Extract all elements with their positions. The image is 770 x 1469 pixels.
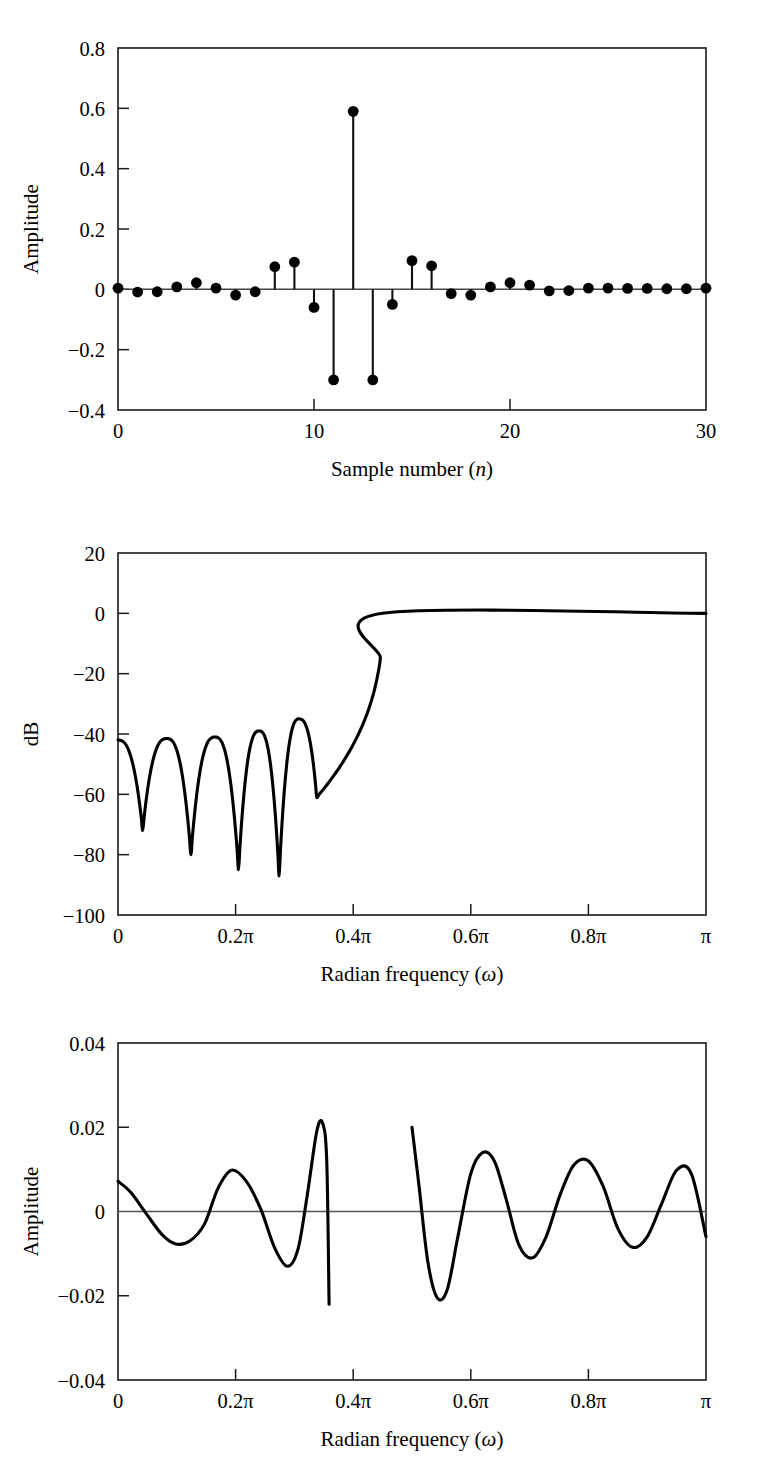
stem-marker — [113, 283, 124, 294]
magnitude-curve — [118, 610, 706, 876]
y-tick-label: 0.8 — [79, 38, 105, 60]
y-axis-title: dB — [19, 722, 43, 747]
stem-marker — [230, 290, 241, 301]
x-tick-label: 0.2π — [218, 1390, 255, 1412]
x-tick-label: 0 — [113, 925, 123, 947]
stem-marker — [211, 283, 222, 294]
stem-marker — [132, 287, 143, 298]
x-tick-label: 0.6π — [453, 1390, 490, 1412]
x-axis-title: Radian frequency (ω) — [321, 962, 504, 986]
stem-marker — [446, 288, 457, 299]
x-axis-title: Sample number (n) — [331, 457, 493, 481]
y-axis-title: Amplitude — [19, 184, 43, 274]
y-tick-label: −0.04 — [58, 1370, 105, 1392]
stem-marker — [289, 257, 300, 268]
y-tick-label: 0 — [95, 603, 105, 625]
plot-frame — [118, 48, 706, 410]
y-tick-label: −0.4 — [68, 400, 105, 422]
x-tick-label: 0.4π — [335, 925, 372, 947]
stem-marker — [583, 283, 594, 294]
figure-page: −0.4−0.200.20.40.60.80102030AmplitudeSam… — [0, 0, 770, 1469]
stem-marker — [269, 261, 280, 272]
panel-b: −100−80−60−40−2002000.2π0.4π0.6π0.8ππdBR… — [0, 500, 770, 1005]
y-tick-label: 0 — [95, 1201, 105, 1223]
stem-marker — [426, 260, 437, 271]
x-tick-label: 0.6π — [453, 925, 490, 947]
stem-marker — [387, 299, 398, 310]
y-axis-title: Amplitude — [19, 1167, 43, 1257]
stem-marker — [603, 283, 614, 294]
error-plot-c: −0.04−0.0200.020.0400.2π0.4π0.6π0.8ππAmp… — [0, 1005, 770, 1469]
y-tick-label: −40 — [73, 724, 105, 746]
x-tick-label: 0 — [113, 1390, 123, 1412]
y-tick-label: −60 — [73, 784, 105, 806]
stem-marker — [367, 374, 378, 385]
stem-plot-a: −0.4−0.200.20.40.60.80102030AmplitudeSam… — [0, 0, 770, 500]
y-tick-label: 0.4 — [79, 158, 105, 180]
y-tick-label: 0.2 — [79, 219, 105, 241]
stem-marker — [701, 283, 712, 294]
y-tick-label: 0.02 — [69, 1117, 105, 1139]
y-tick-label: −80 — [73, 844, 105, 866]
stem-marker — [171, 282, 182, 293]
x-tick-label: π — [701, 1390, 712, 1412]
stem-marker — [642, 283, 653, 294]
x-tick-label: 10 — [304, 420, 325, 442]
stopband-ripple-curve — [118, 1120, 329, 1304]
y-tick-label: 0.6 — [79, 98, 105, 120]
stem-marker — [152, 286, 163, 297]
stem-marker — [505, 277, 516, 288]
x-tick-label: 0 — [113, 420, 123, 442]
stem-series — [113, 106, 712, 385]
stem-marker — [309, 302, 320, 313]
passband-ripple-curve — [412, 1127, 706, 1300]
stem-marker — [563, 285, 574, 296]
stem-marker — [681, 283, 692, 294]
stem-marker — [524, 280, 535, 291]
y-tick-label: −0.2 — [68, 339, 105, 361]
stem-marker — [661, 283, 672, 294]
x-tick-label: 0.2π — [218, 925, 255, 947]
y-tick-label: 0 — [95, 279, 105, 301]
stem-marker — [544, 285, 555, 296]
x-tick-label: 0.8π — [570, 1390, 607, 1412]
stem-marker — [250, 286, 261, 297]
x-axis-title: Radian frequency (ω) — [321, 1427, 504, 1451]
x-tick-label: 20 — [500, 420, 521, 442]
panel-c: −0.04−0.0200.020.0400.2π0.4π0.6π0.8ππAmp… — [0, 1005, 770, 1469]
y-tick-label: −100 — [63, 905, 105, 927]
x-tick-label: 30 — [696, 420, 717, 442]
y-tick-label: −20 — [73, 663, 105, 685]
x-tick-label: π — [701, 925, 712, 947]
y-tick-label: 20 — [85, 543, 106, 565]
x-tick-label: 0.4π — [335, 1390, 372, 1412]
stem-marker — [407, 255, 418, 266]
magnitude-plot-b: −100−80−60−40−2002000.2π0.4π0.6π0.8ππdBR… — [0, 500, 770, 1005]
plot-frame — [118, 553, 706, 915]
panel-a: −0.4−0.200.20.40.60.80102030AmplitudeSam… — [0, 0, 770, 500]
stem-marker — [328, 374, 339, 385]
stem-marker — [191, 277, 202, 288]
stem-marker — [622, 283, 633, 294]
x-tick-label: 0.8π — [570, 925, 607, 947]
stem-marker — [465, 290, 476, 301]
y-tick-label: −0.02 — [58, 1285, 105, 1307]
y-tick-label: 0.04 — [69, 1033, 105, 1055]
stem-marker — [485, 282, 496, 293]
stem-marker — [348, 106, 359, 117]
